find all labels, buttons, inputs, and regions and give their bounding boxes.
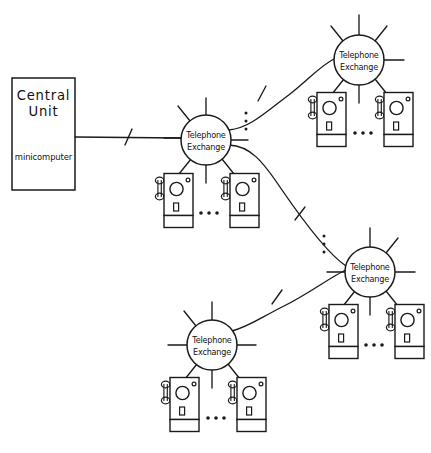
telephone-icon[interactable] xyxy=(155,174,193,228)
exchange-bottom-node[interactable]: Telephone Exchange xyxy=(161,302,266,432)
ellipsis-midright-branches xyxy=(323,235,326,254)
telephone-icon[interactable] xyxy=(161,378,199,432)
trunk-link-central-unit-to-exchange-center xyxy=(75,129,181,145)
telephone-icon[interactable] xyxy=(320,305,358,359)
exchange-bottom-label-line1: Telephone xyxy=(191,335,232,345)
exchange-top-right-circle xyxy=(334,35,384,85)
exchange-center-circle xyxy=(181,115,231,165)
exchange-mid-right-circle xyxy=(345,247,395,297)
exchange-top-right-label-line2: Exchange xyxy=(340,62,378,72)
trunk-tick-mark xyxy=(258,86,266,101)
ellipsis-more-phones xyxy=(206,416,226,420)
network-diagram: Central Unit minicomputer xyxy=(0,0,431,453)
exchange-center-label-line1: Telephone xyxy=(185,130,226,140)
diagram-canvas: Central Unit minicomputer xyxy=(0,0,431,453)
telephone-icon[interactable] xyxy=(228,378,266,432)
trunk-tick-mark xyxy=(295,207,305,220)
exchange-mid-right-node[interactable]: Telephone Exchange xyxy=(320,228,424,359)
telephone-icon[interactable] xyxy=(221,174,259,228)
exchange-top-right-node[interactable]: Telephone Exchange xyxy=(308,15,413,147)
exchange-top-right-label-line1: Telephone xyxy=(338,50,379,60)
exchange-center-node[interactable]: Telephone Exchange xyxy=(155,98,259,228)
central-unit-title-line2: Unit xyxy=(28,104,58,119)
ellipsis-more-phones xyxy=(199,211,219,215)
exchange-bottom-circle xyxy=(187,320,237,370)
telephone-icon[interactable] xyxy=(308,93,346,147)
central-unit-title-line1: Central xyxy=(17,88,71,103)
trunk-tick-mark xyxy=(272,290,282,304)
exchange-mid-right-label-line1: Telephone xyxy=(349,262,390,272)
central-unit-subtitle: minicomputer xyxy=(15,152,73,162)
exchange-bottom-label-line2: Exchange xyxy=(193,347,231,357)
exchange-mid-right-label-line2: Exchange xyxy=(351,274,389,284)
ellipsis-center-branches xyxy=(245,112,248,131)
central-unit-node[interactable]: Central Unit minicomputer xyxy=(12,78,75,190)
exchange-center-label-line2: Exchange xyxy=(187,142,225,152)
telephone-icon[interactable] xyxy=(386,305,424,359)
ellipsis-more-phones xyxy=(364,343,384,347)
telephone-icon[interactable] xyxy=(375,93,413,147)
ellipsis-more-phones xyxy=(353,131,373,135)
